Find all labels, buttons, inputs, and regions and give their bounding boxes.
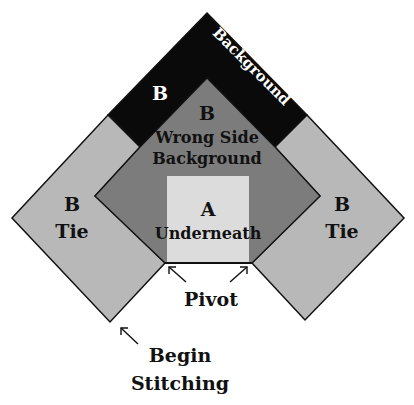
pivot-left-arrow-icon [169,267,186,282]
background-band-letter: B [152,82,168,104]
underneath-text: Underneath [155,224,262,243]
bow-tie-stitching-diagram: B Background B Wrong Side Background A U… [0,0,414,405]
begin-stitching-line2: Stitching [131,372,229,394]
wrong-side-line1: Wrong Side [154,128,259,147]
wrong-side-line2: Background [152,149,261,168]
right-tie-text: Tie [325,220,358,242]
underneath-letter: A [200,198,216,220]
begin-stitching-arrow-icon [121,328,138,344]
left-tie-letter: B [64,193,80,215]
wrong-side-letter: B [199,102,215,124]
pivot-right-arrow-icon [230,267,247,282]
right-tie-letter: B [334,193,350,215]
begin-stitching-line1: Begin [149,344,212,366]
left-tie-text: Tie [55,220,88,242]
pivot-label: Pivot [184,288,238,310]
